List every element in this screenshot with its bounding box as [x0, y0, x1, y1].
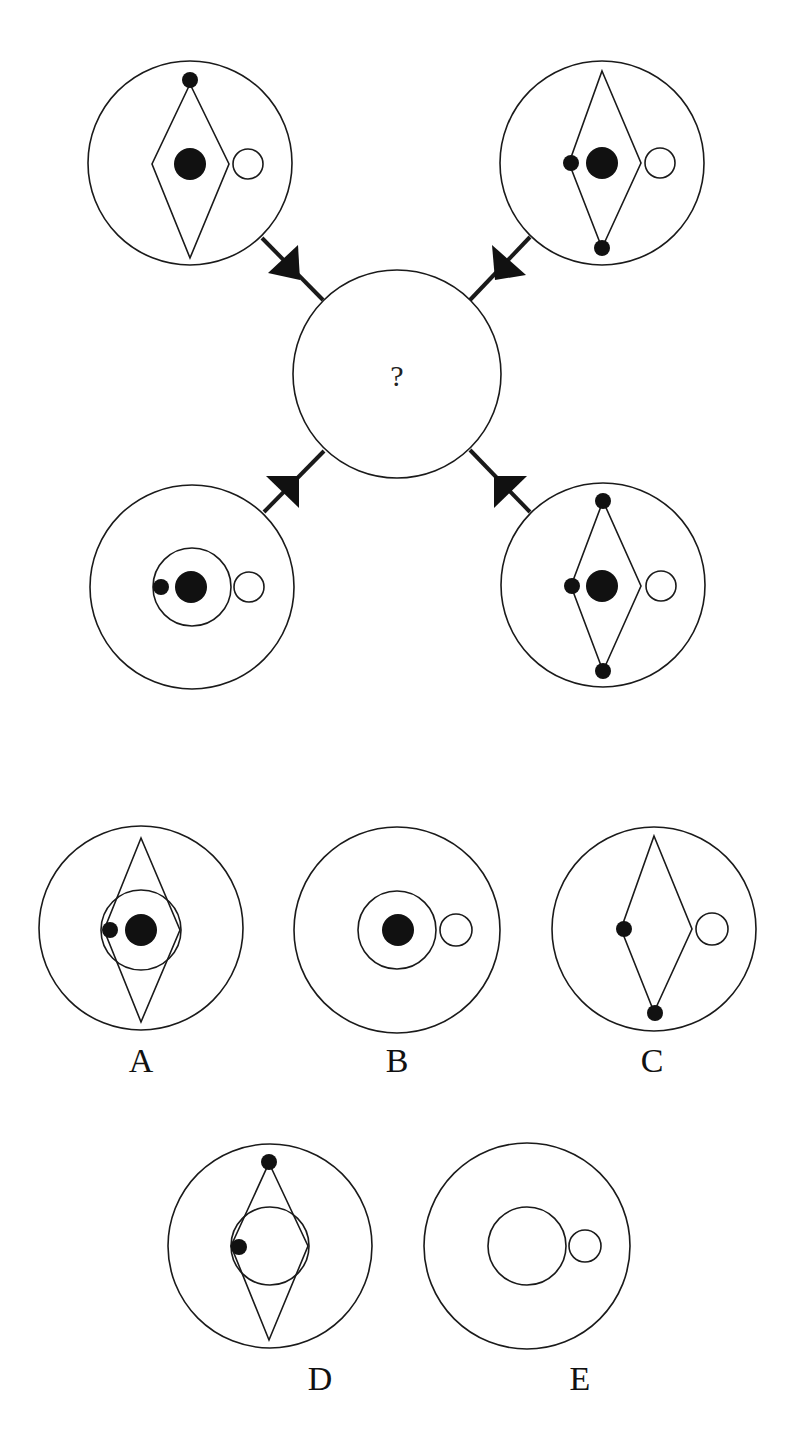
connector-bottom-right: [470, 450, 530, 512]
question-mark: ?: [390, 359, 403, 392]
option-a[interactable]: [39, 826, 243, 1030]
option-b-label: B: [386, 1042, 409, 1079]
option-e-label: E: [570, 1360, 591, 1397]
puzzle-diagram: ? A B C D E: [0, 0, 804, 1439]
connector-top-left: [262, 238, 323, 300]
option-c[interactable]: [552, 827, 756, 1031]
figure-bottom-left: [90, 485, 294, 689]
connector-bottom-left: [264, 451, 324, 512]
connector-top-right: [470, 237, 530, 300]
arrow-head-icon: [492, 245, 526, 280]
figure-top-left: [88, 61, 292, 265]
option-d[interactable]: [168, 1144, 372, 1348]
figure-bottom-right: [501, 483, 705, 687]
option-b[interactable]: [294, 827, 500, 1033]
option-c-label: C: [641, 1042, 664, 1079]
option-e[interactable]: [424, 1143, 630, 1349]
option-a-label: A: [129, 1042, 154, 1079]
figure-top-right: [500, 61, 704, 265]
option-d-label: D: [308, 1360, 333, 1397]
